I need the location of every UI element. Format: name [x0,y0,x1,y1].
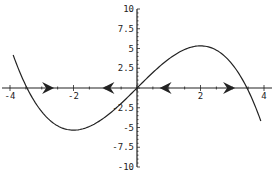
y-tick-label: -5 [123,123,134,133]
x-tick-label: 2 [198,91,203,101]
x-tick-label: 4 [261,91,266,101]
y-tick-label: 5 [129,44,134,54]
x-tick-label: -4 [5,91,16,101]
y-tick-label: -7.5 [112,142,134,152]
y-tick-label: 7.5 [118,24,134,34]
y-tick-label: 2.5 [118,63,134,73]
phase-line-chart: -4-224107.552.5-2.5-5-7.5-10 [0,0,275,182]
y-tick-label: -10 [118,162,134,172]
y-tick-label: 10 [123,4,134,14]
x-tick-label: -2 [68,91,79,101]
